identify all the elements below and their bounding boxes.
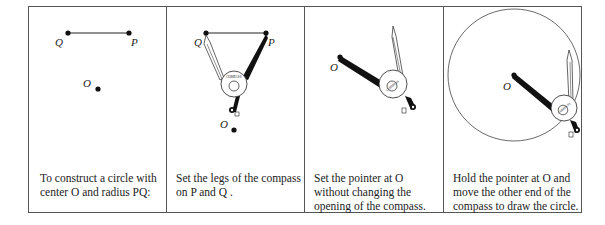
panel-2-caption: Set the legs of the compass on P and Q . xyxy=(176,171,301,199)
caption-line: compass to draw the circle. xyxy=(453,199,579,213)
caption-line: opening of the compass. xyxy=(314,199,426,213)
label-q: Q xyxy=(194,36,202,48)
caption-line: Hold the pointer at O and xyxy=(453,171,579,185)
caption-line: center O and radius PQ: xyxy=(40,185,157,199)
panel-4-diagram: COMPASS O xyxy=(448,9,580,141)
panel-1-diagram: Q P O xyxy=(55,30,138,91)
point-p xyxy=(126,30,131,35)
label-o: O xyxy=(503,80,511,92)
label-q: Q xyxy=(55,36,63,48)
point-q xyxy=(65,30,70,35)
caption-line: without changing the xyxy=(314,185,426,199)
panel-3-caption: Set the pointer at O without changing th… xyxy=(314,171,426,213)
compass-label: COMPASS xyxy=(226,75,242,79)
caption-line: Set the pointer at O xyxy=(314,171,426,185)
panel-2-diagram: COMPASS Q P O xyxy=(194,30,275,132)
label-o: O xyxy=(83,77,91,89)
label-p: P xyxy=(130,36,138,48)
label-p: P xyxy=(267,36,275,48)
caption-line: move the other end of the xyxy=(453,185,579,199)
caption-line: To construct a circle with xyxy=(40,171,157,185)
panel-4-caption: Hold the pointer at O and move the other… xyxy=(453,171,579,213)
compass-pencil-leg xyxy=(392,26,403,77)
caption-line: on P and Q . xyxy=(176,185,301,199)
compass-pointer-leg xyxy=(242,34,268,80)
label-o: O xyxy=(330,61,338,73)
panel-3-diagram: COMPASS O xyxy=(330,26,416,113)
point-o xyxy=(95,86,100,91)
compass-pencil-leg xyxy=(204,35,224,80)
compass-pencil-leg xyxy=(567,50,573,102)
panel-1-caption: To construct a circle with center O and … xyxy=(40,171,157,199)
label-o: O xyxy=(220,118,228,130)
caption-line: Set the legs of the compass xyxy=(176,171,301,185)
